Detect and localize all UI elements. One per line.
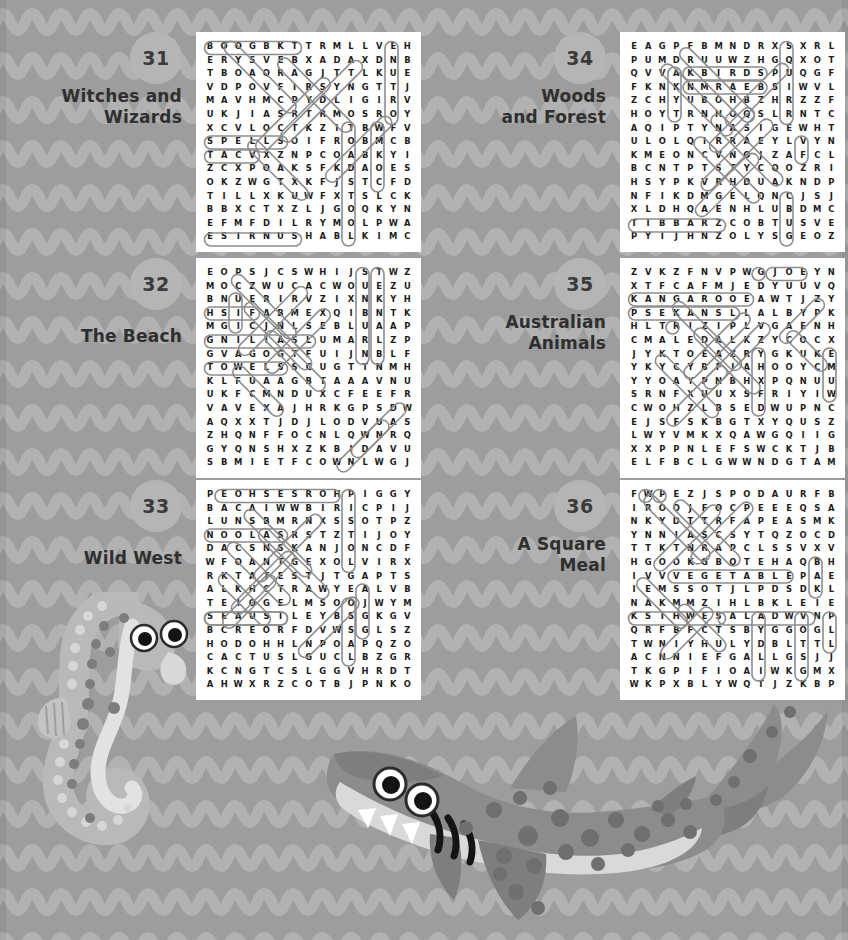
grid-cell[interactable]: S: [754, 108, 768, 122]
grid-cell[interactable]: T: [344, 529, 358, 543]
grid-cell[interactable]: Q: [627, 67, 641, 81]
grid-cell[interactable]: P: [726, 266, 740, 280]
grid-cell[interactable]: D: [683, 190, 697, 204]
grid-cell[interactable]: W: [754, 443, 768, 457]
grid-cell[interactable]: A: [259, 529, 273, 543]
grid-cell[interactable]: J: [231, 108, 245, 122]
grid-cell[interactable]: L: [824, 624, 838, 638]
grid-cell[interactable]: M: [231, 217, 245, 231]
grid-cell[interactable]: A: [754, 307, 768, 321]
grid-cell[interactable]: Q: [796, 502, 810, 516]
grid-cell[interactable]: P: [400, 334, 414, 348]
grid-cell[interactable]: K: [768, 597, 782, 611]
grid-cell[interactable]: A: [344, 375, 358, 389]
grid-cell[interactable]: M: [655, 54, 669, 68]
grid-cell[interactable]: X: [400, 556, 414, 570]
grid-cell[interactable]: L: [782, 597, 796, 611]
grid-cell[interactable]: O: [203, 176, 217, 190]
grid-cell[interactable]: G: [386, 488, 400, 502]
grid-cell[interactable]: B: [217, 203, 231, 217]
grid-cell[interactable]: T: [302, 40, 316, 54]
grid-cell[interactable]: Y: [754, 348, 768, 362]
grid-cell[interactable]: A: [273, 162, 287, 176]
grid-cell[interactable]: J: [796, 293, 810, 307]
grid-cell[interactable]: N: [655, 162, 669, 176]
grid-cell[interactable]: G: [316, 665, 330, 679]
grid-cell[interactable]: I: [810, 429, 824, 443]
grid-cell[interactable]: Y: [655, 515, 669, 529]
grid-cell[interactable]: L: [288, 610, 302, 624]
grid-cell[interactable]: I: [712, 597, 726, 611]
grid-cell[interactable]: V: [231, 122, 245, 136]
grid-cell[interactable]: I: [344, 443, 358, 457]
grid-cell[interactable]: D: [810, 176, 824, 190]
grid-cell[interactable]: N: [245, 443, 259, 457]
grid-cell[interactable]: W: [754, 429, 768, 443]
grid-cell[interactable]: I: [627, 583, 641, 597]
grid-cell[interactable]: F: [683, 40, 697, 54]
grid-cell[interactable]: G: [712, 190, 726, 204]
grid-cell[interactable]: N: [372, 361, 386, 375]
grid-cell[interactable]: B: [754, 570, 768, 584]
grid-cell[interactable]: O: [740, 488, 754, 502]
grid-cell[interactable]: J: [641, 416, 655, 430]
grid-cell[interactable]: L: [824, 149, 838, 163]
grid-cell[interactable]: U: [231, 293, 245, 307]
grid-cell[interactable]: S: [217, 230, 231, 244]
grid-cell[interactable]: C: [217, 122, 231, 136]
grid-cell[interactable]: O: [344, 217, 358, 231]
grid-cell[interactable]: B: [259, 515, 273, 529]
grid-cell[interactable]: W: [330, 624, 344, 638]
grid-cell[interactable]: O: [655, 135, 669, 149]
grid-cell[interactable]: B: [203, 502, 217, 516]
grid-cell[interactable]: C: [810, 149, 824, 163]
grid-cell[interactable]: H: [627, 320, 641, 334]
grid-cell[interactable]: P: [768, 67, 782, 81]
grid-cell[interactable]: V: [810, 81, 824, 95]
grid-cell[interactable]: E: [697, 610, 711, 624]
grid-cell[interactable]: J: [330, 176, 344, 190]
grid-cell[interactable]: N: [810, 320, 824, 334]
grid-cell[interactable]: A: [245, 556, 259, 570]
grid-cell[interactable]: W: [768, 665, 782, 679]
grid-cell[interactable]: X: [627, 280, 641, 294]
grid-cell[interactable]: E: [697, 651, 711, 665]
grid-cell[interactable]: B: [782, 307, 796, 321]
grid-cell[interactable]: R: [302, 488, 316, 502]
grid-cell[interactable]: G: [697, 556, 711, 570]
grid-cell[interactable]: V: [316, 624, 330, 638]
grid-cell[interactable]: N: [768, 190, 782, 204]
grid-cell[interactable]: A: [302, 542, 316, 556]
grid-cell[interactable]: T: [273, 556, 287, 570]
grid-cell[interactable]: L: [344, 651, 358, 665]
grid-cell[interactable]: J: [344, 266, 358, 280]
grid-cell[interactable]: D: [288, 416, 302, 430]
grid-cell[interactable]: W: [288, 502, 302, 516]
grid-cell[interactable]: R: [683, 108, 697, 122]
grid-cell[interactable]: B: [330, 443, 344, 457]
grid-cell[interactable]: C: [245, 320, 259, 334]
grid-cell[interactable]: U: [358, 280, 372, 294]
grid-cell[interactable]: T: [358, 176, 372, 190]
grid-cell[interactable]: G: [796, 665, 810, 679]
grid-cell[interactable]: C: [231, 542, 245, 556]
grid-cell[interactable]: D: [372, 54, 386, 68]
grid-cell[interactable]: Z: [386, 280, 400, 294]
grid-cell[interactable]: S: [683, 583, 697, 597]
grid-cell[interactable]: G: [768, 320, 782, 334]
grid-cell[interactable]: L: [288, 320, 302, 334]
grid-cell[interactable]: B: [330, 230, 344, 244]
grid-cell[interactable]: D: [386, 402, 400, 416]
grid-cell[interactable]: P: [372, 217, 386, 231]
grid-cell[interactable]: O: [669, 149, 683, 163]
grid-cell[interactable]: D: [697, 334, 711, 348]
grid-cell[interactable]: K: [400, 307, 414, 321]
grid-cell[interactable]: K: [824, 515, 838, 529]
grid-cell[interactable]: H: [669, 203, 683, 217]
grid-cell[interactable]: G: [655, 40, 669, 54]
grid-cell[interactable]: L: [302, 203, 316, 217]
grid-cell[interactable]: Y: [655, 176, 669, 190]
grid-cell[interactable]: C: [641, 94, 655, 108]
grid-cell[interactable]: E: [372, 388, 386, 402]
grid-cell[interactable]: C: [386, 135, 400, 149]
